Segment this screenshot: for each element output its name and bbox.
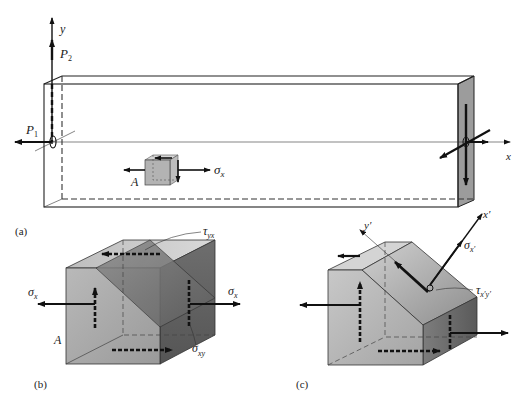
tau-xprime-yprime-label: τx′y′ — [476, 283, 491, 299]
beam-top-face — [44, 76, 474, 84]
sigma-x-left-label: σx — [28, 285, 38, 301]
stress-transformation-figure: y P2 P1 x A σx (a) — [0, 0, 527, 404]
caption-c: (c) — [296, 378, 309, 391]
x-prime-label: x′ — [482, 208, 491, 220]
y-axis-label: y — [59, 22, 66, 36]
x-axis-label: x — [505, 150, 511, 162]
point-a-label-b: A — [53, 333, 62, 347]
caption-a: (a) — [15, 225, 28, 238]
figure-svg: y P2 P1 x A σx (a) — [0, 0, 527, 404]
p2-label: P2 — [59, 46, 72, 63]
panel-b-cube: τyx σx σx σxy A (b) — [28, 224, 240, 391]
sigma-x-label-a: σx — [214, 162, 224, 179]
sigma-xprime-label: σx′ — [464, 238, 475, 254]
p1-label: P1 — [25, 122, 38, 139]
beam-front-face — [44, 84, 458, 207]
panel-c-wedge: x′ y′ σx′ τx′y′ (c) — [296, 208, 508, 391]
tau-yx-label: τyx — [203, 224, 215, 240]
caption-b: (b) — [34, 378, 47, 391]
y-prime-label: y′ — [363, 219, 372, 231]
sigma-x-right-label: σx — [228, 284, 238, 300]
point-a-label: A — [130, 175, 139, 189]
panel-a-beam: y P2 P1 x A σx (a) — [15, 18, 511, 238]
